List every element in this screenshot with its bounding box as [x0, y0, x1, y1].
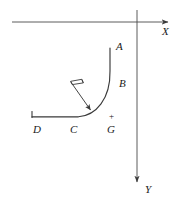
point-label-g: G [107, 124, 115, 135]
y-axis-label: Y [145, 184, 151, 195]
normal-force-arrow-shaft [71, 82, 91, 111]
point-label-a: A [116, 41, 123, 52]
point-label-c: C [70, 124, 77, 135]
diagram-svg [0, 0, 180, 203]
point-label-b: B [119, 78, 126, 89]
charge-plus-sign: + [109, 112, 114, 121]
point-label-d: D [33, 124, 41, 135]
figure-canvas: X Y A B C D + G [0, 0, 180, 203]
x-axis-label: X [162, 26, 169, 37]
